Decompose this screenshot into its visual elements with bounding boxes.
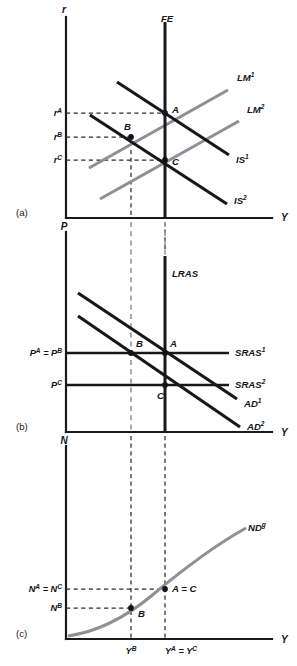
panel-a-point-a-label: A [171, 104, 179, 115]
panel-b-point-b-label: B [136, 338, 143, 349]
panel-a-y-axis-label: r [62, 4, 67, 15]
panel-c-point-b-dot [128, 605, 134, 611]
curve-label-ad2-sup: 2 [260, 420, 265, 427]
curve-label-lm2: LM2 [247, 103, 265, 115]
curve-ad2 [78, 316, 240, 427]
panel-c-point-b-label: B [138, 608, 145, 619]
curve-ad1 [78, 293, 237, 399]
curve-nd-g [68, 528, 246, 636]
panel-a: r Y FE LM1 LM2 IS1 IS2 A B C rA rB rC (a… [16, 4, 289, 223]
panel-b-ytick-equals: = [41, 348, 51, 358]
panel-c-tag: (c) [16, 628, 27, 639]
panel-b: P Y LRAS SRAS1 SRAS2 AD1 AD2 A B C PA = … [16, 221, 289, 438]
panel-a-point-c-dot [162, 157, 168, 163]
curve-label-ad2-main: AD [246, 421, 261, 432]
panel-a-point-b-label: B [124, 121, 131, 132]
curve-label-lm2-main: LM [247, 104, 262, 115]
three-panel-macro-diagram: r Y FE LM1 LM2 IS1 IS2 A B C rA rB rC (a… [0, 0, 297, 666]
figure-root: r Y FE LM1 LM2 IS1 IS2 A B C rA rB rC (a… [0, 0, 297, 666]
panel-c-point-ac-dot [162, 586, 168, 592]
curve-label-ad1: AD1 [243, 397, 262, 409]
panel-b-x-axis-label: Y [281, 427, 289, 438]
panel-b-point-b-dot [128, 350, 134, 356]
panel-a-ytick-rB: rB [54, 131, 63, 142]
panel-c-xtick-yb-sup: B [132, 645, 137, 652]
curve-label-is2: IS2 [234, 194, 247, 206]
panel-c-ytick-na-nc: NA = NC [29, 583, 63, 594]
panel-a-point-c-label: C [172, 156, 180, 167]
curve-label-sras2: SRAS2 [235, 378, 266, 390]
curve-label-lm1-main: LM [237, 72, 252, 83]
panel-b-point-c-label: C [157, 390, 165, 401]
curve-label-ad1-main: AD [243, 398, 258, 409]
curve-label-ndg: NDg [248, 521, 266, 533]
panel-a-point-b-dot [128, 134, 134, 140]
panel-c-xtick-ya-yc: YA = YC [165, 645, 197, 656]
panel-a-ytick-rB-sup: B [57, 131, 62, 138]
panel-a-x-axis-label: Y [281, 212, 289, 223]
curve-label-is1-sup: 1 [245, 153, 249, 160]
curve-label-lm1-sup: 1 [251, 71, 255, 78]
curve-label-lras: LRAS [172, 268, 199, 279]
panel-b-point-a-label: A [169, 338, 177, 349]
curve-label-ad1-sup: 1 [258, 397, 262, 404]
panel-c-xtick-yc-sup: C [192, 645, 197, 652]
panel-b-point-c-dot [162, 382, 168, 388]
curve-label-is2-sup: 2 [242, 194, 247, 201]
panel-c-point-ac-label: A = C [171, 583, 198, 594]
panel-a-ytick-rC-sup: C [57, 154, 62, 161]
panel-c-ytick-nb: NB [51, 602, 63, 613]
curve-label-sras2-sup: 2 [261, 378, 266, 385]
panel-c: N Y NDg A = C B NA = NC NB YB YA = YC (c… [16, 435, 289, 656]
panel-c-x-axis-label: Y [281, 634, 289, 645]
panel-b-ytick-pa-pb: PA = PB [30, 347, 63, 358]
panel-a-ytick-rC: rC [54, 154, 63, 165]
curve-label-ad2: AD2 [246, 420, 265, 432]
panel-c-y-axis-label: N [60, 435, 68, 446]
curve-label-is1: IS1 [236, 153, 249, 165]
panel-c-ytick-nb-sup: B [57, 602, 62, 609]
panel-c-xtick-y-equals: = [176, 646, 186, 656]
panel-b-ytick-pC: PC [51, 379, 62, 390]
panel-a-ytick-rA: rA [54, 107, 63, 118]
curve-label-lm2-sup: 2 [260, 103, 265, 110]
curve-label-sras1: SRAS1 [235, 346, 266, 358]
panel-a-tag: (a) [16, 207, 28, 218]
panel-a-ytick-rA-sup: A [56, 107, 62, 114]
curve-label-sras1-main: SRAS [235, 347, 262, 358]
curve-label-lm1: LM1 [237, 71, 255, 83]
panel-c-ytick-nc-sup: C [57, 583, 62, 590]
panel-a-point-a-dot [162, 110, 168, 116]
panel-c-xtick-yb: YB [126, 645, 137, 656]
curve-label-sras2-main: SRAS [235, 379, 262, 390]
panel-b-tag: (b) [16, 421, 28, 432]
panel-b-point-a-dot [162, 350, 168, 356]
curve-label-sras1-sup: 1 [262, 346, 266, 353]
panel-c-ytick-n-equals: = [40, 584, 50, 594]
curve-label-fe: FE [161, 13, 174, 24]
panel-b-ytick-pb-sup: B [57, 347, 62, 354]
panel-b-ytick-pC-sup: C [57, 379, 62, 386]
curve-label-ndg-sup: g [261, 521, 266, 529]
panel-b-y-axis-label: P [61, 221, 68, 232]
curve-label-ndg-main: ND [248, 522, 262, 533]
